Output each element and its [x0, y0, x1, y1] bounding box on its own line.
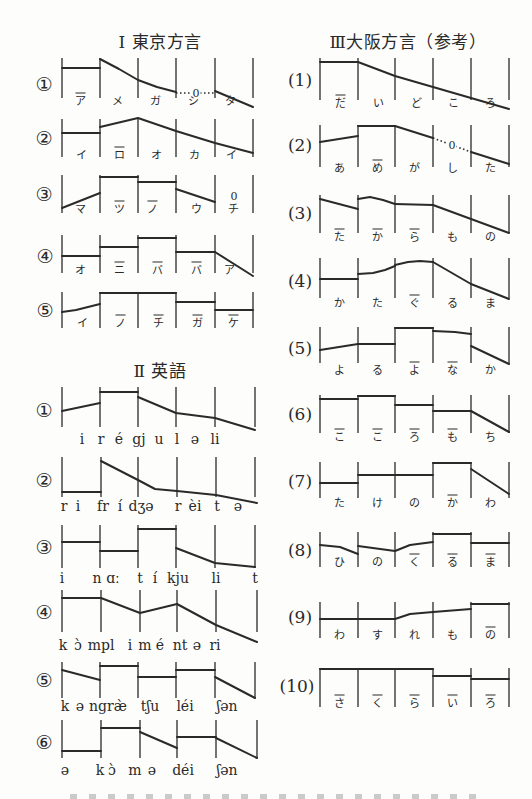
accented-mora-label: バ	[152, 265, 163, 276]
pitch-line	[62, 304, 100, 312]
mora-label: t	[252, 571, 258, 585]
pitch-line	[395, 204, 433, 205]
mora-label: déi	[172, 763, 194, 777]
row-number: (9)	[288, 609, 312, 626]
pitch-diagram: (8)ひのくるま	[280, 526, 515, 574]
row-number: ⑥	[35, 733, 52, 752]
mora-label: léi	[176, 699, 193, 713]
pitch-line	[358, 266, 395, 274]
pitch-contour-graphic	[24, 169, 259, 221]
pitch-diagram: ①0アメガシタ	[24, 52, 259, 113]
mora-label: kju	[167, 571, 189, 585]
mora-label: tʃu	[141, 699, 159, 713]
pitch-diagram-list: (1)だいどころ(2)0あめがした(3)たからもの(4)かたぐるま(5)よるよな…	[276, 25, 526, 720]
row-number: ④	[36, 247, 53, 266]
row-number: ①	[35, 75, 52, 94]
accented-mora-label: ツ	[114, 204, 125, 215]
pitch-line	[320, 344, 358, 350]
mora-label: ə	[148, 763, 156, 777]
mora-label: ろ	[485, 98, 496, 109]
mora-label: k	[59, 638, 67, 652]
pitch-diagram: (1)だいどころ	[280, 52, 515, 115]
mora-label: わ	[485, 498, 496, 509]
cropped-caption-fragment	[70, 794, 480, 799]
mora-label: か	[334, 298, 345, 309]
mora-label: ə	[193, 638, 201, 652]
pitch-diagram: ⑤イノチガケ	[25, 286, 259, 335]
row-number: (8)	[288, 542, 312, 559]
pitch-diagram: (7)たけのかわ	[280, 456, 515, 515]
mora-label: し	[447, 163, 458, 174]
mora-label: gj	[132, 432, 145, 446]
pitch-diagram: ②イロオカイ	[24, 112, 259, 167]
accented-mora-label: バ	[191, 265, 202, 276]
pitch-line	[140, 732, 177, 748]
accented-mora-label: ろ	[485, 698, 496, 709]
pitch-line	[395, 542, 433, 551]
mora-label: k	[96, 763, 104, 777]
accented-mora-label: さ	[334, 698, 345, 709]
pitch-diagram: (10)さくらいろ	[277, 662, 515, 715]
mora-label: li	[211, 432, 220, 446]
pitch-diagram: ③inɑːtíkjulit	[24, 519, 261, 590]
mora-label: カ	[189, 150, 200, 161]
pitch-line	[138, 397, 255, 430]
pitch-contour-graphic	[280, 52, 515, 115]
mora-label: の	[409, 498, 420, 509]
mora-label: l	[175, 432, 179, 446]
accented-mora-label: の	[485, 630, 496, 641]
mora-label: ひ	[334, 557, 345, 568]
pitch-diagram: (9)わすれもの	[280, 596, 515, 647]
accented-mora-label: ア	[75, 96, 86, 107]
row-number: ③	[35, 185, 52, 204]
mora-label: i	[80, 432, 84, 446]
pitch-diagram: ⑥əkɔ̀mədéiʃən	[24, 714, 263, 782]
pitch-diagram: ④オニババア	[25, 229, 259, 282]
row-number: (2)	[288, 137, 312, 154]
mora-label: ɔ̀	[74, 638, 82, 652]
zero-mark: 0	[230, 191, 239, 202]
mora-label: ʃən	[216, 763, 237, 777]
mora-label: オ	[75, 265, 86, 276]
mora-label: n	[92, 571, 101, 585]
pitch-line	[395, 612, 433, 619]
pitch-contour-graphic	[280, 189, 515, 249]
mora-label: í	[153, 571, 157, 585]
mora-label: マ	[75, 204, 86, 215]
pitch-contour-graphic	[280, 321, 515, 382]
mora-label: fr	[97, 499, 109, 513]
accented-mora-label: く	[372, 698, 383, 709]
pitch-line	[471, 346, 509, 364]
mora-label: í	[118, 499, 122, 513]
pitch-line	[62, 403, 100, 411]
accented-mora-label: ろ	[409, 432, 420, 443]
pitch-diagram: (5)よるよなか	[280, 321, 515, 382]
mora-label: あ	[334, 163, 345, 174]
pitch-line	[358, 197, 395, 204]
pitch-line	[358, 546, 395, 551]
mora-label: m	[138, 638, 151, 652]
mora-label: い	[373, 98, 384, 109]
mora-label: ち	[485, 432, 496, 443]
mora-label: た	[334, 498, 345, 509]
mora-label: こ	[448, 98, 459, 109]
mora-label: nt	[173, 638, 188, 652]
row-number: ②	[35, 471, 52, 490]
mora-label: dʒə	[128, 499, 153, 513]
mora-label: é	[115, 432, 123, 446]
mora-label: ɑː	[106, 571, 120, 585]
accented-mora-label: こ	[372, 432, 383, 443]
mora-label: も	[447, 232, 458, 243]
accented-mora-label: ら	[409, 698, 420, 709]
mora-label: ɔ̀	[108, 763, 116, 777]
accented-mora-label: ノ	[115, 318, 126, 329]
pitch-diagram: (6)こころもち	[280, 389, 515, 449]
mora-label: t	[214, 499, 220, 513]
mora-label: る	[372, 365, 383, 376]
mora-label: れ	[409, 630, 420, 641]
pitch-diagram: ②rifrídʒərèitə	[24, 451, 263, 518]
pitch-line	[320, 545, 358, 554]
mora-label: m	[128, 763, 141, 777]
mora-label: r	[175, 499, 182, 513]
mora-label: る	[447, 298, 458, 309]
